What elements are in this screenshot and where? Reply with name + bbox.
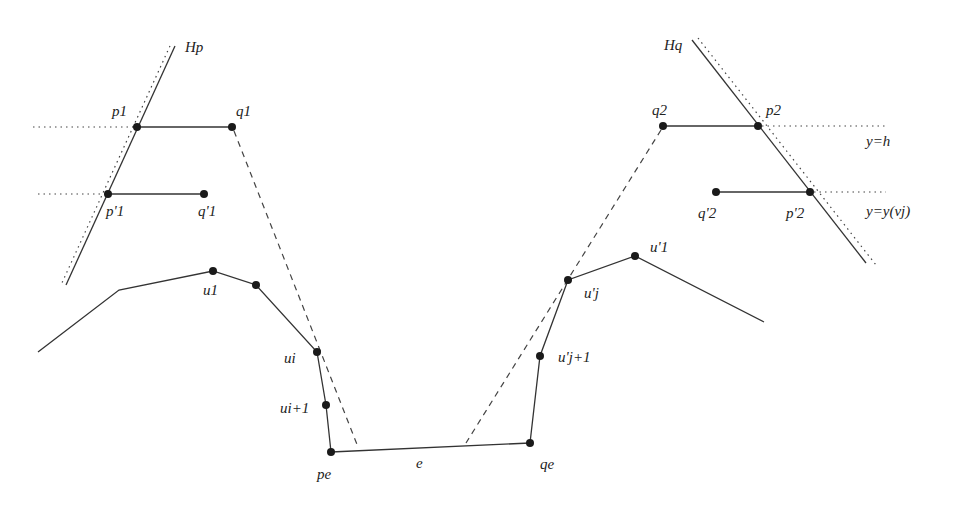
point-p2 bbox=[754, 122, 762, 130]
point-u1 bbox=[209, 267, 217, 275]
label-ujprime-plus-1: u'j+1 bbox=[558, 349, 591, 365]
label-e: e bbox=[416, 455, 423, 471]
point-p1prime bbox=[104, 190, 112, 198]
point-p1 bbox=[133, 123, 141, 131]
label-q1: q1 bbox=[236, 103, 251, 119]
label-y-yvj: y=y(vj) bbox=[864, 203, 910, 220]
label-ujprime: u'j bbox=[584, 285, 599, 301]
edge-e bbox=[331, 443, 530, 452]
label-q1prime: q'1 bbox=[198, 203, 216, 219]
dashed-q2-to-e bbox=[466, 130, 661, 443]
point-ui-plus-1 bbox=[322, 401, 330, 409]
label-q2prime: q'2 bbox=[698, 205, 717, 221]
label-u1prime: u'1 bbox=[650, 239, 668, 255]
hq-dotted-parallel bbox=[698, 38, 876, 265]
label-p1prime: p'1 bbox=[105, 203, 124, 219]
label-q2: q2 bbox=[652, 102, 668, 118]
point-u2 bbox=[252, 281, 260, 289]
label-hq: Hq bbox=[663, 37, 683, 53]
point-ujprime bbox=[564, 276, 572, 284]
label-y-h: y=h bbox=[864, 133, 890, 149]
label-p2prime: p'2 bbox=[785, 205, 805, 221]
label-hp: Hp bbox=[184, 39, 204, 55]
point-q2 bbox=[659, 122, 667, 130]
point-ujprime-plus-1 bbox=[536, 352, 544, 360]
label-u1: u1 bbox=[203, 282, 218, 298]
point-q1prime bbox=[200, 190, 208, 198]
point-ui bbox=[313, 348, 321, 356]
hp-dotted-parallel bbox=[61, 46, 170, 285]
label-pe: pe bbox=[316, 466, 332, 482]
point-p2prime bbox=[806, 188, 814, 196]
hp-line bbox=[66, 46, 175, 285]
label-ui: ui bbox=[284, 350, 296, 366]
geometry-diagram: Hp Hq p1 q1 p'1 q'1 u1 ui ui+1 pe e qe u… bbox=[0, 0, 958, 515]
hq-line bbox=[692, 40, 866, 263]
point-pe bbox=[327, 448, 335, 456]
label-p1: p1 bbox=[111, 103, 127, 119]
label-ui-plus-1: ui+1 bbox=[280, 400, 309, 416]
label-qe: qe bbox=[540, 456, 555, 472]
point-u1prime bbox=[631, 252, 639, 260]
point-q2prime bbox=[712, 188, 720, 196]
label-p2: p2 bbox=[765, 102, 782, 118]
point-qe bbox=[526, 439, 534, 447]
point-q1 bbox=[228, 123, 236, 131]
